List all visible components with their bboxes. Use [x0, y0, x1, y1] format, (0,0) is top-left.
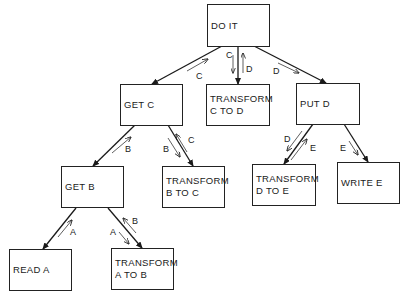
node-label: GET C: [124, 99, 182, 111]
node-put-d: PUT D: [296, 83, 360, 125]
node-write-e: WRITE E: [337, 162, 400, 204]
node-transform-d-to-e: TRANSFORM D TO E: [252, 164, 316, 206]
flow-label: B: [163, 144, 169, 154]
node-label: WRITE E: [341, 177, 399, 189]
node-label: DO IT: [211, 20, 269, 32]
node-transform-c-to-d: TRANSFORM C TO D: [206, 84, 270, 126]
node-label: GET B: [65, 181, 123, 193]
node-do-it: DO IT: [207, 4, 270, 47]
node-label: TRANSFORM: [115, 257, 173, 269]
edge-do-it-transform-c-to-d: [233, 46, 243, 84]
node-label: D TO E: [256, 185, 315, 197]
flow-label: C: [196, 71, 203, 81]
edge-put-d-transform-d-to-e: [284, 124, 313, 164]
node-transform-a-to-b: TRANSFORM A TO B: [111, 248, 174, 290]
edge-do-it-get-c: [152, 46, 222, 84]
node-label: READ A: [13, 264, 71, 276]
edge-put-d-write-e: [344, 124, 368, 162]
node-label: PUT D: [300, 98, 359, 110]
flow-label: D: [246, 64, 253, 74]
node-label: TRANSFORM: [256, 173, 315, 185]
flow-label: D: [284, 134, 291, 144]
flow-arrow-up-icon: [176, 134, 187, 152]
node-read-a: READ A: [9, 249, 72, 291]
flow-label: E: [340, 143, 346, 153]
flow-label: D: [273, 66, 280, 76]
node-label: A TO B: [115, 269, 173, 281]
node-transform-b-to-c: TRANSFORM B TO C: [162, 166, 225, 208]
node-label: C TO D: [210, 105, 269, 117]
edge-do-it-put-d: [254, 46, 326, 83]
node-label: TRANSFORM: [210, 93, 269, 105]
flow-label: E: [310, 143, 316, 153]
node-label: TRANSFORM: [166, 175, 224, 187]
flow-label: B: [125, 144, 131, 154]
node-get-b: GET B: [61, 166, 124, 208]
node-label: B TO C: [166, 187, 224, 199]
flow-arrow-up-icon: [187, 59, 208, 71]
flow-label: B: [132, 216, 138, 226]
flow-arrow-down-icon: [119, 232, 129, 244]
edge-get-c-transform-b-to-c: [168, 125, 193, 166]
flow-label: A: [110, 227, 116, 237]
flow-label: C: [226, 50, 233, 60]
flow-label: C: [188, 135, 195, 145]
node-get-c: GET C: [120, 84, 183, 126]
flow-label: A: [70, 227, 76, 237]
program-structure-diagram: C C D D B B C D E E A A B DO IT GET C TR…: [0, 0, 406, 293]
